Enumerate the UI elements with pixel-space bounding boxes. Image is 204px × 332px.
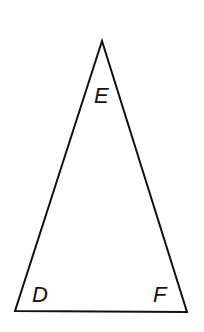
triangle-diagram: E D F <box>0 0 204 332</box>
vertex-label-d: D <box>32 282 48 307</box>
vertex-label-e: E <box>94 83 109 108</box>
triangle-def <box>15 41 187 312</box>
vertex-label-f: F <box>153 282 168 307</box>
